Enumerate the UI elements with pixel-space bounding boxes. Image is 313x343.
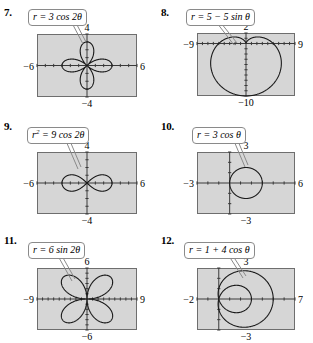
polar-plot [37,268,137,330]
equation-callout: r = 6 sin 2θ [28,242,85,259]
window-xmin-label: −6 [23,60,34,71]
window-ymin-label: −3 [241,215,252,226]
window-xmin-label: −9 [23,294,34,305]
polar-plot [197,152,295,214]
equation-callout: r = 3 cos 2θ [28,9,87,26]
problem-panel-11: 11.6−6−99r = 6 sin 2θ [0,228,156,342]
equation-callout: r = 1 + 4 cos θ [184,242,255,259]
problem-panel-9: 9.4−4−66r2 = 9 cos 2θ [0,114,156,228]
window-xmin-label: −6 [23,178,34,189]
window-ymin-label: −6 [82,331,93,342]
problem-panel-8: 8.2−10−99r = 5 − 5 sin θ [157,0,313,114]
polar-plot [197,268,295,330]
problem-panel-12: 12.3−3−27r = 1 + 4 cos θ [157,228,313,342]
worksheet-page: 7.4−4−66r = 3 cos 2θ8.2−10−99r = 5 − 5 s… [0,0,313,343]
window-xmax-label: 7 [298,294,303,305]
window-ymax-label: 6 [85,256,90,267]
problem-panel-10: 10.3−3−36r = 3 cos θ [157,114,313,228]
problem-number: 10. [161,120,174,132]
window-ymin-label: −4 [82,98,93,109]
equation-callout: r = 5 − 5 sin θ [186,9,255,26]
axes [197,152,295,214]
problem-number: 11. [4,234,17,246]
window-xmax-label: 6 [298,178,303,189]
window-xmin-label: −2 [183,294,194,305]
problem-number: 12. [161,234,174,246]
polar-plot [37,152,137,214]
problem-panel-7: 7.4−4−66r = 3 cos 2θ [0,0,156,114]
equation-callout: r2 = 9 cos 2θ [27,127,89,144]
axes [197,268,295,330]
problem-number: 7. [4,6,12,18]
window-xmax-label: 6 [140,178,145,189]
window-ymin-label: −3 [241,331,252,342]
window-xmin-label: −9 [183,38,194,49]
window-xmin-label: −3 [183,178,194,189]
window-ymin-label: −4 [82,215,93,226]
window-xmax-label: 9 [140,294,145,305]
problem-number: 9. [4,120,12,132]
window-ymin-label: −10 [238,97,254,108]
polar-plot [37,34,137,97]
problem-number: 8. [161,6,169,18]
window-xmax-label: 6 [140,60,145,71]
window-xmax-label: 9 [298,38,303,49]
equation-callout: r = 3 cos θ [192,127,246,144]
polar-plot [197,33,295,96]
